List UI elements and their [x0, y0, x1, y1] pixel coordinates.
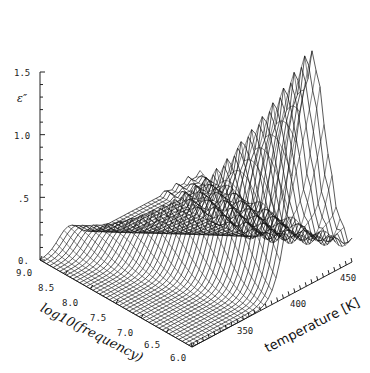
- x-tick-label: 7.0: [117, 328, 133, 338]
- x-tick-label: 6.0: [170, 353, 186, 363]
- y-tick-label: 450: [340, 273, 356, 283]
- z-tick-label: .5: [18, 194, 29, 204]
- x-tick-label: 7.5: [90, 313, 106, 323]
- z-tick-label: 1.0: [14, 131, 30, 141]
- x-tick-label: 8.0: [62, 298, 78, 308]
- z-axis-title: ε″: [17, 92, 27, 105]
- z-axis: [40, 72, 45, 260]
- z-tick-label: 0.: [18, 256, 29, 266]
- y-tick-label: 400: [290, 299, 306, 309]
- x-tick-label: 8.5: [38, 283, 54, 293]
- z-tick-label: 1.5: [14, 68, 30, 78]
- x-tick-label: 6.5: [144, 340, 160, 350]
- x-tick-label: 9.0: [16, 268, 32, 278]
- y-tick-label: 350: [237, 326, 253, 336]
